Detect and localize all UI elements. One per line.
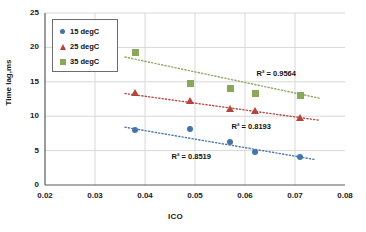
legend-label: 15 degC — [70, 27, 99, 36]
data-point — [187, 80, 194, 87]
data-point — [296, 114, 304, 121]
x-tick-label: 0.05 — [175, 191, 215, 200]
data-point — [252, 90, 259, 97]
data-point — [186, 97, 194, 104]
y-tick-label: 20 — [13, 42, 39, 51]
data-point — [252, 149, 258, 155]
y-tick-label: 5 — [13, 146, 39, 155]
r-squared-annotation: R² = 0.8193 — [232, 122, 271, 131]
data-point — [131, 89, 139, 96]
legend-item-25: 25 degC — [58, 39, 114, 54]
x-axis-label: ICO — [168, 212, 183, 221]
data-point — [226, 105, 234, 112]
triangle-marker-icon — [58, 41, 67, 52]
square-marker-icon — [58, 56, 67, 67]
x-tick-label: 0.02 — [25, 191, 65, 200]
y-axis-label: Time lag,ms — [4, 53, 13, 113]
data-point — [251, 107, 259, 114]
data-point — [132, 49, 139, 56]
data-point — [297, 92, 304, 99]
r-squared-annotation: R² = 0.9564 — [257, 69, 296, 78]
y-tick-label: 0 — [13, 180, 39, 189]
y-tick-label: 25 — [13, 8, 39, 17]
chart-legend: 15 degC 25 degC 35 degC — [52, 19, 118, 72]
x-tick-label: 0.08 — [325, 191, 365, 200]
y-tick-label: 15 — [13, 77, 39, 86]
scatter-chart: Time lag,ms ICO 0510152025 0.020.030.040… — [0, 0, 366, 232]
data-point — [132, 127, 138, 133]
x-tick-label: 0.04 — [125, 191, 165, 200]
r-squared-annotation: R² = 0.8519 — [172, 152, 211, 161]
data-point — [187, 126, 193, 132]
legend-label: 25 degC — [70, 42, 99, 51]
x-tick-label: 0.06 — [225, 191, 265, 200]
x-tick-label: 0.03 — [75, 191, 115, 200]
legend-label: 35 degC — [70, 57, 99, 66]
y-tick-label: 10 — [13, 111, 39, 120]
legend-item-15: 15 degC — [58, 24, 114, 39]
data-point — [227, 85, 234, 92]
circle-marker-icon — [58, 26, 67, 37]
x-tick-label: 0.07 — [275, 191, 315, 200]
legend-item-35: 35 degC — [58, 54, 114, 69]
